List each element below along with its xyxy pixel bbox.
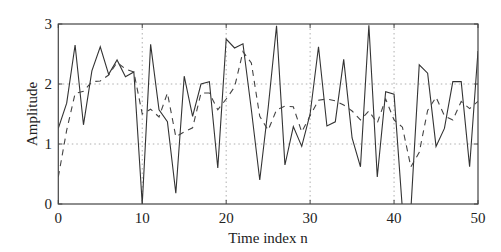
x-axis-label: Time index n (228, 230, 308, 246)
y-tick-label: 3 (45, 16, 53, 32)
data-series (58, 25, 478, 210)
y-axis-tick-labels: 0123 (45, 16, 53, 212)
dashed-series-line (58, 52, 478, 177)
line-chart: 01020304050 0123 Time index n Amplitude (0, 0, 501, 252)
solid-series-line (58, 25, 478, 210)
x-axis-tick-labels: 01020304050 (55, 210, 486, 226)
x-tick-label: 20 (219, 210, 234, 226)
y-axis-label: Amplitude (24, 82, 40, 147)
x-tick-label: 10 (135, 210, 150, 226)
y-tick-label: 2 (45, 76, 53, 92)
plot-frame (58, 24, 478, 204)
x-tick-label: 40 (387, 210, 402, 226)
grid-lines (58, 24, 478, 204)
x-tick-label: 0 (55, 210, 63, 226)
x-tick-label: 30 (303, 210, 318, 226)
y-tick-label: 0 (45, 196, 53, 212)
x-tick-label: 50 (471, 210, 486, 226)
y-tick-label: 1 (45, 136, 53, 152)
axis-ticks (58, 24, 478, 204)
